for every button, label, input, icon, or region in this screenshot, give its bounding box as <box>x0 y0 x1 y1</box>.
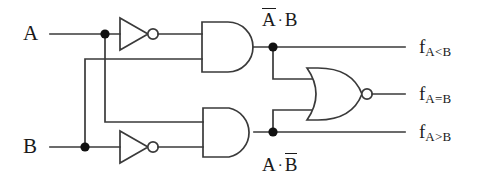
output-f-eq-subscript: A=B <box>425 91 451 106</box>
term-top-operand-b: B <box>285 9 298 30</box>
term-label-not-a-and-b: A·B <box>262 8 297 29</box>
junction-dot-and-bottom-output <box>268 127 277 136</box>
term-top-operand-a: A <box>262 8 276 29</box>
term-bottom-operand-a: A <box>262 154 276 175</box>
nor-gate-bubble <box>362 89 372 99</box>
inverter-b-bubble <box>148 142 158 152</box>
output-f-lt-subscript: A<B <box>425 44 451 59</box>
wire-junction-dots <box>80 29 277 151</box>
inverter-a-bubble <box>148 29 158 39</box>
output-f-gt-subscript: A>B <box>425 129 451 144</box>
junction-dot-and-top-output <box>268 42 277 51</box>
circuit-wiring <box>0 0 486 181</box>
nor-gate-body <box>307 68 362 120</box>
term-label-a-and-not-b: A·B <box>262 153 297 174</box>
wire-b-branch-up <box>85 59 202 147</box>
term-bottom-operand-b: B <box>285 153 298 174</box>
output-label-f-a-lt-b: fA<B <box>419 37 451 58</box>
input-label-a: A <box>23 23 38 44</box>
wire-and-top-to-nor <box>273 47 312 79</box>
term-bottom-operator: · <box>276 157 285 173</box>
logic-circuit-diagram: A B A·B A·B fA<B fA=B fA>B <box>0 0 486 181</box>
junction-dot-b-input <box>80 142 89 151</box>
output-label-f-a-eq-b: fA=B <box>419 84 451 105</box>
inverter-a-triangle <box>120 18 148 50</box>
wire-and-bottom-to-nor <box>273 110 312 132</box>
and-gate-bottom-body <box>203 108 249 157</box>
junction-dot-a-input <box>100 29 109 38</box>
output-label-f-a-gt-b: fA>B <box>419 122 451 143</box>
input-label-b: B <box>23 136 37 157</box>
inverter-b-triangle <box>120 131 148 163</box>
term-top-operator: · <box>276 12 285 28</box>
and-gate-top-body <box>202 22 253 72</box>
